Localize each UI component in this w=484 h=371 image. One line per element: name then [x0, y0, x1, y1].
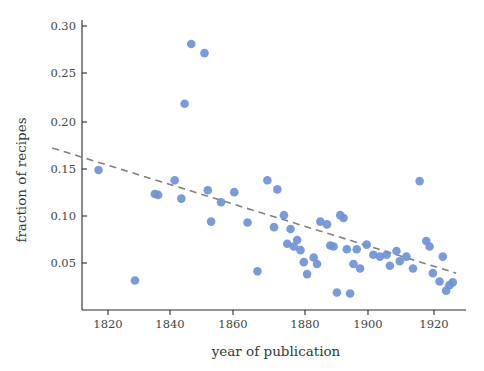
data-point [243, 218, 252, 227]
y-tick-label-0.15: 0.15 [50, 162, 76, 176]
data-point [296, 246, 305, 255]
data-point [356, 264, 365, 273]
y-axis-ticks [82, 26, 87, 263]
data-point [154, 191, 163, 200]
data-point [429, 269, 438, 278]
data-point [343, 245, 352, 254]
data-point [313, 260, 322, 269]
data-point [207, 217, 216, 226]
data-point [270, 223, 279, 232]
data-point [409, 264, 418, 273]
x-tick-label-1920: 1920 [419, 317, 448, 331]
data-point [286, 225, 295, 234]
y-tick-label-0.10: 0.10 [50, 209, 76, 223]
data-point [187, 40, 196, 49]
data-point [280, 211, 289, 220]
data-point [303, 270, 312, 279]
data-point [170, 176, 179, 185]
data-point [339, 214, 348, 223]
x-tick-labels: 1820 1840 1860 1880 1900 1920 [93, 317, 448, 331]
x-axis-ticks [108, 310, 434, 315]
scatter-chart: 0.30 0.25 0.20 0.15 0.10 0.05 fraction o… [0, 0, 484, 371]
x-tick-label-1880: 1880 [290, 317, 319, 331]
data-point [263, 176, 272, 185]
data-point [415, 177, 424, 186]
data-point [346, 289, 355, 298]
data-point [448, 278, 457, 287]
data-point [435, 277, 444, 286]
data-points-group [94, 40, 457, 298]
y-tick-label-0.20: 0.20 [50, 115, 76, 129]
data-point [329, 242, 338, 251]
data-point [273, 185, 282, 194]
data-point [217, 198, 226, 207]
data-point [362, 240, 371, 249]
data-point [253, 267, 262, 276]
data-point [333, 288, 342, 297]
y-axis-title: fraction of recipes [13, 117, 29, 242]
data-point [200, 49, 209, 58]
data-point [386, 262, 395, 271]
x-axis: 1820 1840 1860 1880 1900 1920 year of pu… [82, 310, 466, 359]
data-point [382, 250, 391, 259]
x-tick-label-1860: 1860 [218, 317, 247, 331]
data-point [425, 242, 434, 251]
x-tick-label-1820: 1820 [93, 317, 122, 331]
data-point [203, 186, 212, 195]
y-tick-label-0.05: 0.05 [50, 256, 76, 270]
x-tick-label-1840: 1840 [155, 317, 184, 331]
chart-canvas: 0.30 0.25 0.20 0.15 0.10 0.05 fraction o… [0, 0, 484, 371]
data-point [180, 99, 189, 108]
y-tick-label-0.30: 0.30 [50, 19, 76, 33]
y-tick-label-0.25: 0.25 [50, 66, 76, 80]
data-point [323, 220, 332, 229]
data-point [94, 166, 103, 175]
data-point [439, 252, 448, 261]
x-tick-label-1900: 1900 [353, 317, 382, 331]
y-axis: 0.30 0.25 0.20 0.15 0.10 0.05 fraction o… [13, 19, 87, 310]
y-tick-labels: 0.30 0.25 0.20 0.15 0.10 0.05 [50, 19, 76, 270]
data-point [177, 194, 186, 203]
data-point [230, 188, 239, 197]
data-point [392, 247, 401, 256]
data-point [293, 236, 302, 245]
data-point [299, 258, 308, 267]
data-point [402, 252, 411, 261]
x-axis-title: year of publication [211, 343, 341, 359]
data-point [131, 276, 140, 285]
data-point [352, 245, 361, 254]
